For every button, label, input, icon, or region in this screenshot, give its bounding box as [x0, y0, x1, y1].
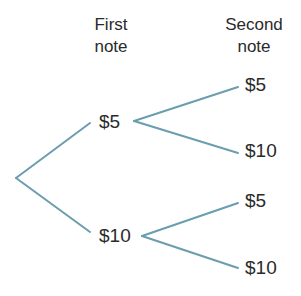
header-first-line2: note [66, 36, 156, 58]
header-second-line2: note [209, 36, 299, 58]
header-second-note: Second note [209, 14, 299, 58]
header-first-note: First note [66, 14, 156, 58]
second-note-10-after-5: $10 [245, 140, 277, 162]
second-note-10-after-10: $10 [245, 257, 277, 279]
branch-5-to-5 [134, 87, 238, 121]
first-note-5: $5 [99, 111, 120, 133]
header-first-line1: First [66, 14, 156, 36]
branch-5-to-10 [134, 121, 238, 153]
branch-root-to-first-10 [16, 178, 90, 232]
second-note-5-after-10: $5 [245, 190, 266, 212]
branch-10-to-10 [142, 236, 238, 268]
branch-root-to-first-5 [16, 123, 90, 178]
second-note-5-after-5: $5 [245, 74, 266, 96]
header-second-line1: Second [209, 14, 299, 36]
first-note-10: $10 [99, 225, 131, 247]
tree-diagram: First note Second note $5 $10 $5 $10 $5 … [0, 0, 301, 296]
branch-10-to-5 [142, 203, 238, 236]
